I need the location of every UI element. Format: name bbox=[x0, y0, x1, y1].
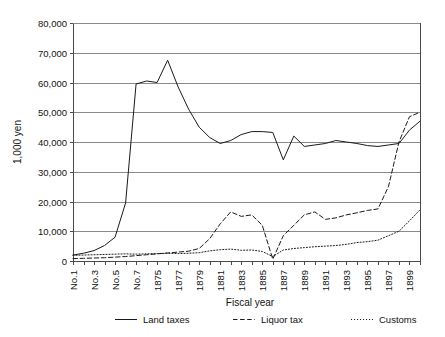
x-axis-title: Fiscal year bbox=[226, 297, 275, 308]
x-axis-tick-label: 1875 bbox=[152, 270, 163, 291]
x-axis-tick-label: 1881 bbox=[215, 270, 226, 291]
y-axis-tick-label: 70,000 bbox=[38, 48, 67, 59]
y-axis-tick-label: 40,000 bbox=[38, 137, 67, 148]
x-axis-tick-label: 1883 bbox=[236, 270, 247, 291]
chart-container: 010,00020,00030,00040,00050,00060,00070,… bbox=[0, 0, 445, 337]
x-axis-tick-label: No.3 bbox=[89, 270, 100, 290]
x-axis-tick-label: 1899 bbox=[404, 270, 415, 291]
x-axis-tick-label: 1885 bbox=[257, 270, 268, 291]
legend-label-liquor-tax: Liquor tax bbox=[261, 314, 303, 325]
x-axis-tick-label: No.1 bbox=[68, 270, 79, 290]
x-axis-tick-label: 1891 bbox=[320, 270, 331, 291]
x-axis-tick-label: 1897 bbox=[383, 270, 394, 291]
x-axis-tick-label: 1887 bbox=[278, 270, 289, 291]
series-line-land-taxes bbox=[73, 60, 420, 255]
y-axis-tick-label: 60,000 bbox=[38, 78, 67, 89]
x-axis-tick-label: 1893 bbox=[341, 270, 352, 291]
y-axis-tick-label: 30,000 bbox=[38, 167, 67, 178]
x-axis-ticks: No.1No.3No.5No.7187518771879188118831885… bbox=[68, 261, 420, 291]
gridlines: 010,00020,00030,00040,00050,00060,00070,… bbox=[38, 18, 420, 267]
y-axis-tick-label: 0 bbox=[62, 256, 67, 267]
series-line-customs bbox=[73, 210, 420, 257]
line-chart: 010,00020,00030,00040,00050,00060,00070,… bbox=[0, 0, 445, 337]
legend-label-customs: Customs bbox=[379, 314, 417, 325]
y-axis-tick-label: 20,000 bbox=[38, 197, 67, 208]
y-axis-title: 1,000 yen bbox=[12, 120, 23, 164]
x-axis-tick-label: No.7 bbox=[131, 270, 142, 290]
series-line-liquor-tax bbox=[73, 112, 420, 259]
x-axis-tick-label: 1895 bbox=[362, 270, 373, 291]
x-axis-tick-label: 1877 bbox=[173, 270, 184, 291]
y-axis-tick-label: 50,000 bbox=[38, 107, 67, 118]
x-axis-tick-label: 1879 bbox=[194, 270, 205, 291]
x-axis-tick-label: No.5 bbox=[110, 270, 121, 290]
legend-label-land-taxes: Land taxes bbox=[143, 314, 190, 325]
x-axis-tick-label: 1889 bbox=[299, 270, 310, 291]
y-axis-tick-label: 80,000 bbox=[38, 18, 67, 29]
y-axis-tick-label: 10,000 bbox=[38, 226, 67, 237]
